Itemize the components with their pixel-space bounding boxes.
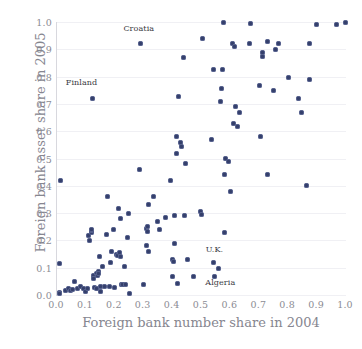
data-point <box>235 124 240 129</box>
data-point <box>222 230 227 235</box>
data-point <box>265 39 270 44</box>
scatter-plot-figure: 0.00.10.20.30.40.50.60.70.80.91.0 Croati… <box>0 0 362 349</box>
annotation-label: Algeria <box>205 278 235 287</box>
x-tick-label: 0.3 <box>135 299 151 310</box>
gridline <box>57 240 346 241</box>
data-point <box>72 279 77 284</box>
gridline <box>57 131 346 132</box>
data-point <box>334 22 339 27</box>
data-point <box>228 189 233 194</box>
data-point <box>174 151 179 156</box>
data-point <box>175 281 180 286</box>
data-point <box>307 41 312 46</box>
data-point <box>107 284 112 289</box>
data-point <box>216 266 221 271</box>
data-point <box>181 55 186 60</box>
data-point <box>191 274 196 279</box>
data-point <box>146 249 151 254</box>
data-point <box>58 178 63 183</box>
data-point <box>257 83 262 88</box>
data-point <box>96 271 101 276</box>
data-point <box>105 194 110 199</box>
data-point <box>221 20 226 25</box>
gridline <box>57 22 346 23</box>
gridline <box>57 159 346 160</box>
data-point <box>299 110 304 115</box>
y-tick-label: 0.0 <box>6 290 52 301</box>
gridline <box>57 49 346 50</box>
data-point <box>97 254 102 259</box>
data-point <box>211 260 216 265</box>
data-point <box>286 75 291 80</box>
data-point <box>111 227 116 232</box>
data-point <box>226 159 231 164</box>
data-point <box>179 144 184 149</box>
data-point <box>233 104 238 109</box>
x-tick-label: 1.0 <box>337 299 353 310</box>
data-point <box>144 243 149 248</box>
data-point <box>209 137 214 142</box>
x-axis-tick-labels: 0.00.10.20.30.40.50.60.70.80.91.0 <box>56 299 346 313</box>
data-point <box>157 227 162 232</box>
data-point <box>90 96 95 101</box>
data-point <box>126 211 131 216</box>
annotation-label: U.K. <box>206 245 223 254</box>
data-point <box>271 88 276 93</box>
data-point <box>260 54 265 59</box>
data-point <box>276 41 281 46</box>
data-point <box>172 241 177 246</box>
x-tick-label: 0.4 <box>164 299 180 310</box>
gridline <box>57 77 346 78</box>
data-point <box>174 134 179 139</box>
gridline <box>57 186 346 187</box>
data-point <box>85 286 90 291</box>
data-point <box>185 257 190 262</box>
data-point <box>211 67 216 72</box>
data-point <box>118 254 123 259</box>
data-point <box>146 202 151 207</box>
data-point <box>258 134 263 139</box>
data-point <box>314 22 319 27</box>
data-point <box>163 215 168 220</box>
plot-area: CroatiaFinlandU.K.Algeria <box>56 22 346 296</box>
data-point <box>155 219 160 224</box>
data-point <box>141 282 146 287</box>
data-point <box>304 183 309 188</box>
data-point <box>98 289 103 294</box>
data-point <box>296 96 301 101</box>
data-point <box>151 194 156 199</box>
x-tick-label: 0.1 <box>77 299 93 310</box>
data-point <box>218 99 223 104</box>
data-point <box>145 229 150 234</box>
data-point <box>343 20 348 25</box>
x-tick-label: 0.0 <box>48 299 64 310</box>
x-tick-label: 0.6 <box>222 299 238 310</box>
data-point <box>104 232 109 237</box>
data-point <box>222 172 227 177</box>
data-point <box>307 77 312 82</box>
data-point <box>219 86 224 91</box>
x-tick-label: 0.8 <box>279 299 295 310</box>
x-tick-label: 0.2 <box>106 299 122 310</box>
data-point <box>112 285 117 290</box>
data-point <box>200 36 205 41</box>
x-axis-title: Foreign bank number share in 2004 <box>56 315 346 330</box>
annotation-label: Finland <box>66 78 98 87</box>
data-point <box>170 274 175 279</box>
data-point <box>108 260 113 265</box>
x-tick-label: 0.5 <box>193 299 209 310</box>
data-point <box>182 213 187 218</box>
annotation-label: Croatia <box>123 24 154 33</box>
data-point <box>273 47 278 52</box>
data-point <box>116 206 121 211</box>
data-point <box>220 67 225 72</box>
data-point <box>176 94 181 99</box>
data-point <box>172 213 177 218</box>
data-point <box>237 110 242 115</box>
x-tick-label: 0.9 <box>308 299 324 310</box>
data-point <box>87 238 92 243</box>
data-point <box>247 41 252 46</box>
y-axis-title: Foreign bank asset share in 2005 <box>33 13 48 273</box>
data-point <box>183 161 188 166</box>
data-point <box>123 282 128 287</box>
